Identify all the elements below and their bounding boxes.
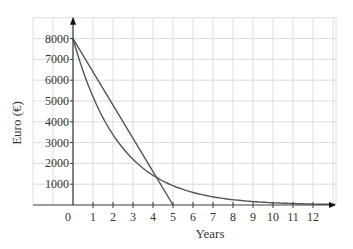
x-tick-label: 3 — [130, 210, 136, 224]
y-tick-label: 5000 — [45, 94, 69, 108]
x-tick-label: 4 — [150, 210, 156, 224]
x-tick-label: 2 — [110, 210, 116, 224]
y-tick-label: 1000 — [45, 177, 69, 191]
x-tick-label: 7 — [210, 210, 216, 224]
x-tick-label: 6 — [190, 210, 196, 224]
grid — [33, 18, 336, 205]
y-tick-label: 4000 — [45, 115, 69, 129]
x-tick-label: 10 — [267, 210, 279, 224]
y-tick-label: 2000 — [45, 156, 69, 170]
depreciation-chart: 0123456789101112100020003000400050006000… — [0, 0, 353, 249]
x-tick-label: 8 — [230, 210, 236, 224]
y-axis-title: Euro (€) — [9, 101, 24, 145]
y-tick-label: 3000 — [45, 136, 69, 150]
x-tick-label: 5 — [170, 210, 176, 224]
x-tick-label: 12 — [307, 210, 319, 224]
x-axis-arrow-icon — [329, 202, 336, 208]
x-axis-title: Years — [195, 226, 224, 241]
x-tick-label: 11 — [287, 210, 299, 224]
y-tick-label: 7000 — [45, 52, 69, 66]
x-tick-label: 9 — [250, 210, 256, 224]
axes — [33, 17, 336, 208]
y-tick-label: 8000 — [45, 32, 69, 46]
x-tick-label: 0 — [65, 210, 71, 224]
y-tick-label: 6000 — [45, 73, 69, 87]
x-tick-label: 1 — [90, 210, 96, 224]
